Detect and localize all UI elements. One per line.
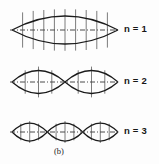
mode-label-n1: n = 1 [124, 24, 147, 34]
figure-caption: (b) [0, 147, 118, 156]
mode-label-n3: n = 3 [124, 126, 147, 136]
standing-wave-figure: n = 1 n = 2 n = 3 (b) [0, 0, 159, 164]
mode-label-n2: n = 2 [124, 76, 147, 86]
mode-row-n2 [10, 67, 120, 98]
mode-row-n1 [10, 9, 120, 51]
mode-row-n3 [10, 121, 120, 143]
